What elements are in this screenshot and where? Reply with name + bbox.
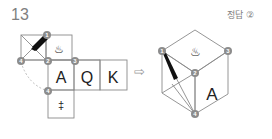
- net-label-k: K: [108, 69, 119, 86]
- cube-steam-icon: ♨: [190, 45, 201, 59]
- net-label-a: A: [56, 69, 67, 86]
- arrow-right-icon: ⇨: [134, 64, 145, 79]
- steam-icon: ♨: [54, 43, 64, 55]
- cube-stripe: [162, 51, 178, 80]
- net-label-q: Q: [81, 69, 93, 86]
- dagger-icon: ‡: [58, 99, 64, 111]
- cube-label-a: A: [206, 85, 218, 104]
- fold-arc: [21, 62, 48, 91]
- cube-right-face: [195, 51, 228, 114]
- cube-net-diagram: ♨ A Q K ‡ 1 2 3 4 4 ⇨ ♨ A 1 2 3 4: [0, 0, 272, 139]
